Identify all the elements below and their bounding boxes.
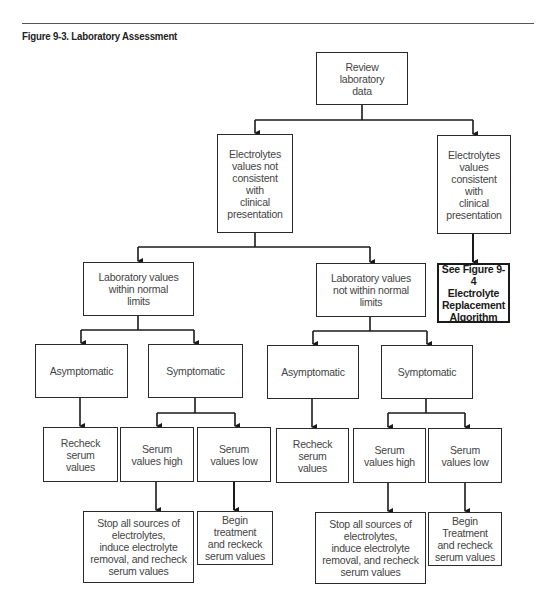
node-left-stop-sources: Stop all sources of electrolytes, induce… (83, 511, 194, 583)
node-right-symptomatic: Symptomatic (381, 345, 473, 399)
node-right-stop-sources: Stop all sources of electrolytes, induce… (315, 512, 426, 584)
node-left-serum-low: Serum values low (197, 427, 271, 482)
node-left-symptomatic: Symptomatic (148, 344, 243, 398)
node-right-serum-low: Serum values low (428, 428, 502, 483)
node-left-recheck-serum: Recheck serum values (43, 427, 118, 482)
node-within-normal-limits: Laboratory values within normal limits (83, 262, 194, 316)
node-see-figure-9-4: See Figure 9-4 Electrolyte Replacement A… (437, 263, 510, 323)
node-right-serum-high: Serum values high (353, 428, 426, 483)
node-right-begin-treatment: Begin Treatment and recheck serum values (428, 512, 502, 566)
node-left-begin-treatment: Begin treatment and reckeck serum values (197, 511, 273, 565)
node-left-asymptomatic: Asymptomatic (35, 344, 128, 398)
node-right-recheck-serum: Recheck serum values (276, 428, 349, 483)
node-right-asymptomatic: Asymptomatic (267, 345, 359, 399)
node-left-serum-high: Serum values high (120, 427, 194, 482)
node-not-within-normal-limits: Laboratory values not within normal limi… (316, 263, 426, 317)
node-values-consistent: Electrolytes values consistent with clin… (437, 135, 511, 234)
node-values-not-consistent: Electrolytes values not consistent with … (217, 134, 293, 233)
node-review-laboratory-data: Review laboratory data (316, 52, 408, 105)
